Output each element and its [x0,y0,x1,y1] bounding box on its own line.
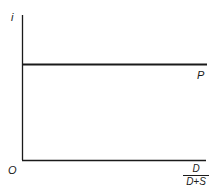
origin-label: O [8,165,17,176]
x-axis-label: D D+S [183,164,209,187]
series-label-p: P [197,70,204,81]
chart: i P O D D+S [0,0,217,195]
y-axis-label: i [11,12,13,23]
x-axis-label-denominator: D+S [183,176,209,187]
x-axis-label-numerator: D [183,164,209,176]
